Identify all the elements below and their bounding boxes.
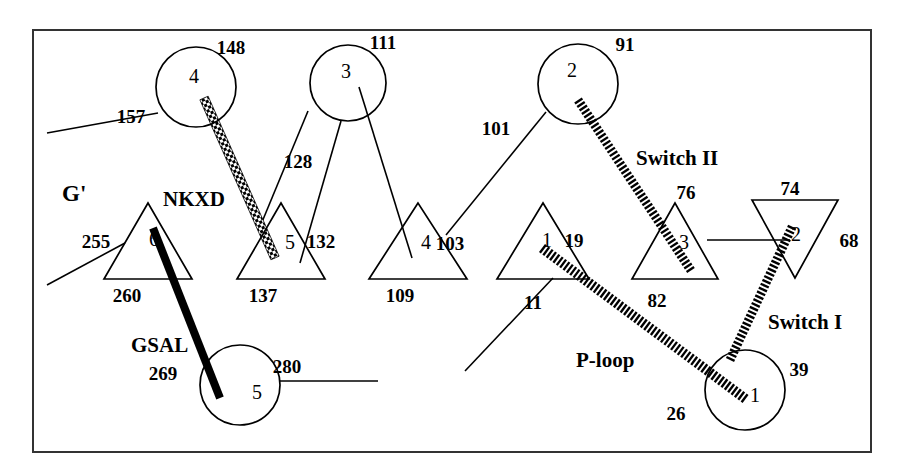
residue-number: 101 bbox=[482, 118, 511, 139]
strand-label: 2 bbox=[791, 223, 801, 245]
motif-label: Switch II bbox=[636, 146, 718, 170]
helix-label: 1 bbox=[750, 384, 760, 406]
strand-label: 3 bbox=[679, 231, 689, 253]
residue-number: 109 bbox=[386, 285, 415, 306]
strand-triangle bbox=[632, 203, 718, 279]
residue-number: 269 bbox=[149, 363, 178, 384]
strand-label: 4 bbox=[421, 231, 431, 253]
motif-label: G' bbox=[62, 181, 86, 206]
helix-circle bbox=[310, 45, 386, 121]
residue-number: 128 bbox=[284, 151, 313, 172]
residue-number: 26 bbox=[667, 403, 686, 424]
motif-label: NKXD bbox=[163, 187, 225, 211]
strand-label: 5 bbox=[285, 231, 295, 253]
motif-ribbon bbox=[539, 244, 748, 403]
helix-label: 2 bbox=[567, 59, 577, 81]
residue-number: 255 bbox=[82, 231, 111, 252]
structure-labels-layer: 43251654132 bbox=[149, 59, 801, 406]
residue-number: 132 bbox=[307, 231, 336, 252]
residue-number: 137 bbox=[249, 285, 278, 306]
motif-labels-layer: G'NKXDGSALP-loopSwitch ISwitch II bbox=[62, 146, 842, 372]
residue-number: 103 bbox=[436, 233, 465, 254]
residue-number: 82 bbox=[648, 290, 667, 311]
residue-number: 157 bbox=[117, 106, 146, 127]
topology-diagram: 43251654132 1481571111281329110110310913… bbox=[0, 0, 904, 472]
motif-label: GSAL bbox=[131, 333, 188, 357]
residue-number: 148 bbox=[217, 37, 246, 58]
residue-number: 111 bbox=[370, 32, 396, 53]
residue-number: 11 bbox=[524, 292, 542, 313]
strand-triangle bbox=[104, 203, 192, 279]
structure-shapes-layer bbox=[104, 44, 838, 430]
motif-label: P-loop bbox=[576, 348, 634, 372]
motif-ribbon bbox=[726, 225, 796, 362]
helix-label: 5 bbox=[252, 381, 262, 403]
figure-canvas: 43251654132 1481571111281329110110310913… bbox=[0, 0, 904, 472]
helix-circle bbox=[156, 47, 236, 127]
residue-number: 19 bbox=[565, 230, 584, 251]
residue-number: 74 bbox=[781, 178, 801, 199]
residue-number: 68 bbox=[840, 230, 859, 251]
strand-label: 1 bbox=[542, 229, 552, 251]
motif-ribbons-layer bbox=[149, 96, 796, 403]
residue-number: 39 bbox=[790, 359, 809, 380]
residue-number: 260 bbox=[113, 285, 142, 306]
helix-label: 4 bbox=[189, 65, 199, 87]
strand-label: 6 bbox=[149, 228, 159, 250]
helix-label: 3 bbox=[341, 60, 351, 82]
helix-circle bbox=[538, 44, 618, 124]
helix-circle bbox=[705, 350, 785, 430]
residue-number: 280 bbox=[273, 356, 302, 377]
connector-line bbox=[359, 87, 412, 258]
residue-number: 76 bbox=[677, 182, 696, 203]
motif-label: Switch I bbox=[768, 310, 842, 334]
motif-ribbon bbox=[200, 96, 279, 260]
residue-number: 91 bbox=[616, 34, 635, 55]
